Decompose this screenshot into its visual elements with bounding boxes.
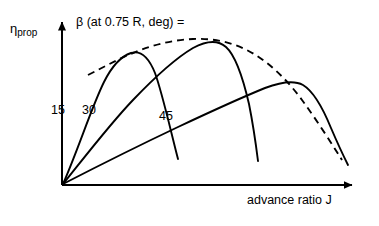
legend-title: β (at 0.75 R, deg) = (76, 16, 184, 29)
series-curve-45 (63, 82, 348, 184)
curve-label-30: 30 (82, 104, 96, 117)
x-axis-label: advance ratio J (247, 194, 332, 207)
curve-label-15: 15 (51, 104, 65, 117)
curve-label-45: 45 (159, 110, 173, 123)
y-axis-label: ηprop (10, 22, 37, 38)
envelope-curve-dashed (88, 39, 342, 160)
y-axis-label-subscript: prop (17, 27, 37, 38)
propeller-efficiency-chart: ηprop β (at 0.75 R, deg) = 15 30 45 adva… (0, 0, 379, 226)
